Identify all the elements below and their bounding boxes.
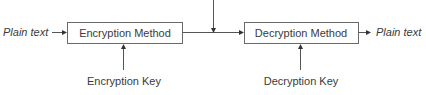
encryption-method-label: Encryption Method — [79, 27, 171, 39]
arrow-decryption-to-output — [359, 30, 372, 35]
arrowhead-icon — [62, 30, 67, 35]
encryption-method-box: Encryption Method — [68, 23, 183, 44]
arrowhead-icon — [298, 44, 303, 49]
arrow-external-into-channel — [211, 0, 216, 33]
encryption-flow-diagram: Plain text Encryption Method Decryption … — [0, 0, 426, 95]
decryption-method-label: Decryption Method — [255, 27, 347, 39]
encryption-key-label: Encryption Key — [87, 75, 161, 87]
decryption-key-label: Decryption Key — [264, 75, 339, 87]
decryption-method-box: Decryption Method — [245, 23, 359, 44]
arrowhead-icon — [366, 30, 371, 35]
arrowhead-icon — [239, 30, 244, 35]
arrow-encryption-key-to-method — [121, 44, 126, 70]
arrow-decryption-key-to-method — [298, 44, 303, 70]
arrowhead-icon — [121, 44, 126, 49]
input-plain-text-label: Plain text — [3, 26, 49, 38]
output-plain-text-label: Plain text — [376, 26, 422, 38]
arrow-input-to-encryption — [52, 30, 67, 35]
